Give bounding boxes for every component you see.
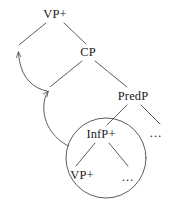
node-label-vp-inner: VP+ xyxy=(70,169,93,182)
ellipsis-predp-right: … xyxy=(149,127,163,140)
infp-left-branch xyxy=(76,143,95,166)
syntax-tree-figure: VP+ CP PredP InfP+ VP+ … … xyxy=(0,0,171,209)
cp-right-branch xyxy=(95,61,127,87)
node-label-infp: InfP+ xyxy=(86,128,115,141)
cp-left-branch xyxy=(51,61,83,87)
node-label-predp: PredP xyxy=(118,90,148,103)
vp-top-left-branch xyxy=(20,23,47,45)
ellipsis-infp-right: … xyxy=(121,171,135,184)
node-label-cp: CP xyxy=(80,46,96,59)
infp-right-branch xyxy=(109,143,128,166)
node-label-vp-top: VP+ xyxy=(43,8,66,21)
movement-arrow-lower xyxy=(44,91,69,146)
movement-arrow-upper xyxy=(18,52,47,91)
vp-top-right-branch xyxy=(64,23,86,44)
predp-right-branch xyxy=(141,105,160,124)
